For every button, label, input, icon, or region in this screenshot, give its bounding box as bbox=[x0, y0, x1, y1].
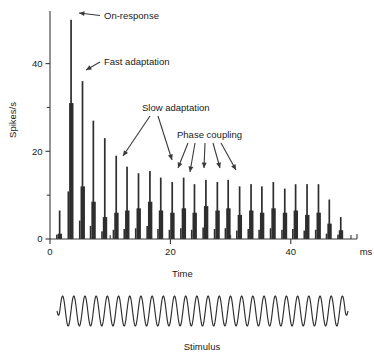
histogram-bar-pedestal bbox=[56, 235, 58, 239]
histogram-bar-peak bbox=[295, 184, 297, 239]
histogram-bar-peak bbox=[306, 184, 308, 239]
histogram-bar-pedestal bbox=[67, 191, 69, 239]
y-axis-tick-label: 0 bbox=[37, 233, 42, 244]
histogram-bar-pedestal bbox=[326, 234, 328, 239]
histogram-bar-peak bbox=[160, 178, 162, 239]
histogram-bar-pedestal bbox=[113, 230, 115, 239]
x-axis-tick-label: 0 bbox=[47, 246, 52, 257]
annotation-phase-coupling-arrow-2-head bbox=[188, 166, 193, 172]
histogram-bar-pedestal bbox=[270, 228, 272, 239]
y-axis-title: Spikes/s bbox=[7, 102, 18, 138]
histogram-bar-pedestal bbox=[225, 228, 227, 239]
stimulus-label: Stimulus bbox=[184, 341, 221, 352]
histogram-bar-pedestal bbox=[169, 230, 171, 239]
histogram-bar-pedestal bbox=[315, 230, 317, 239]
histogram-bar-peak bbox=[59, 211, 61, 240]
annotation-slow-adaptation-arrow-1 bbox=[123, 116, 150, 156]
histogram-bar-pedestal bbox=[247, 229, 249, 239]
histogram-bar-peak bbox=[92, 121, 94, 239]
axes: 0204002040msTimeSpikes/s bbox=[7, 11, 373, 279]
histogram-bar-peak bbox=[183, 178, 185, 239]
annotation-slow-adaptation-label: Slow adaptation bbox=[142, 102, 210, 113]
histogram-bar-peak bbox=[284, 189, 286, 239]
annotation-slow-adaptation-arrow-1-head bbox=[123, 150, 128, 156]
histogram-bar-peak bbox=[205, 180, 207, 239]
histogram-bar-pedestal bbox=[281, 230, 283, 239]
histogram-bar-pedestal bbox=[101, 231, 103, 239]
histogram-bar-pedestal bbox=[258, 230, 260, 239]
histogram-bar-peak bbox=[318, 184, 320, 239]
annotation-slow-adaptation-arrow-2 bbox=[158, 116, 172, 160]
annotation-phase-coupling-label: Phase coupling bbox=[177, 129, 242, 140]
x-axis-unit-label: ms bbox=[360, 246, 373, 257]
histogram-bar-peak bbox=[272, 182, 274, 239]
histogram-bar-peak bbox=[149, 171, 151, 239]
x-axis-tick-label: 40 bbox=[285, 246, 296, 257]
histogram-bar-peak bbox=[250, 184, 252, 239]
histogram-bar-peak bbox=[70, 20, 72, 239]
histogram-bar-peak bbox=[227, 180, 229, 239]
x-axis-title: Time bbox=[172, 268, 193, 279]
histogram-bar-pedestal bbox=[79, 221, 81, 239]
annotation-phase-coupling-arrow-3-head bbox=[202, 163, 207, 169]
annotation-slow-adaptation-arrow-2-head bbox=[168, 154, 173, 160]
histogram-bar-pedestal bbox=[180, 228, 182, 239]
histogram-bar-peak bbox=[340, 217, 342, 239]
histogram-bar-peak bbox=[115, 156, 117, 239]
histogram-bar-pedestal bbox=[292, 229, 294, 239]
histogram-bar-peak bbox=[239, 186, 241, 239]
y-axis-tick-label: 20 bbox=[32, 146, 43, 157]
histogram-bar-pedestal bbox=[123, 229, 125, 239]
stimulus-waveform bbox=[57, 296, 348, 326]
histogram-bar-peak bbox=[261, 186, 263, 239]
annotation-fast-adaptation-label: Fast adaptation bbox=[104, 56, 170, 67]
histogram-bar-pedestal bbox=[157, 229, 159, 239]
histogram-bar-peak bbox=[217, 182, 219, 239]
histogram-bar-pedestal bbox=[236, 231, 238, 239]
histogram-bar-peak bbox=[104, 138, 106, 239]
annotation-on-response-label: On-response bbox=[104, 10, 159, 21]
histogram-bar-peak bbox=[126, 167, 128, 239]
histogram-bar-peak bbox=[171, 182, 173, 239]
psth-figure: 0204002040msTimeSpikes/sOn-responseFast … bbox=[0, 0, 374, 357]
y-axis-tick-label: 40 bbox=[32, 58, 43, 69]
histogram-bar-peak bbox=[82, 81, 84, 239]
histogram-bar-pedestal bbox=[214, 229, 216, 239]
histogram-bar-pedestal bbox=[146, 226, 148, 239]
x-axis-tick-label: 20 bbox=[165, 246, 176, 257]
histogram-bar-peak bbox=[194, 184, 196, 239]
annotations: On-responseFast adaptationSlow adaptatio… bbox=[79, 10, 242, 172]
histogram-bar-pedestal bbox=[337, 235, 339, 239]
histogram-bar-pedestal bbox=[90, 226, 92, 239]
histogram-bar-pedestal bbox=[135, 228, 137, 239]
figure-container: 0204002040msTimeSpikes/sOn-responseFast … bbox=[0, 0, 374, 357]
histogram-bar-peak bbox=[138, 173, 140, 239]
histogram-bar-peak bbox=[328, 200, 330, 239]
histogram-bar-pedestal bbox=[303, 231, 305, 239]
histogram-bar-pedestal bbox=[191, 230, 193, 239]
histogram-bar-pedestal bbox=[202, 227, 204, 239]
